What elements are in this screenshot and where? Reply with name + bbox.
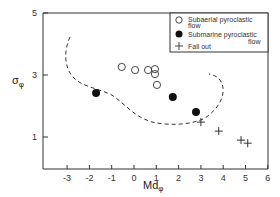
x-tick-label: 4 — [221, 173, 226, 183]
legend-label: flow — [188, 22, 201, 29]
data-points — [92, 63, 252, 147]
filled-circle-point — [92, 89, 100, 97]
x-tick-label: 2 — [176, 173, 181, 183]
y-axis-label: σφ — [12, 74, 24, 89]
plus-point — [197, 118, 205, 126]
filled-circle-icon — [176, 31, 183, 38]
open-circle-point — [118, 63, 125, 70]
x-tick-label: 6 — [265, 173, 270, 183]
y-tick-label: 5 — [32, 8, 37, 18]
y-tick-label: 3 — [32, 70, 37, 80]
x-tick-label: 5 — [243, 173, 248, 183]
scatter-chart: 135 -3-2-10123456 σφ Mdφ Subaerial pyroc… — [0, 0, 280, 197]
legend-label: Fall out — [188, 43, 211, 50]
x-tick-label: -3 — [63, 173, 71, 183]
x-tick-label: 0 — [131, 173, 136, 183]
open-circle-point — [153, 81, 160, 88]
legend-label: Submarine pyroclastic — [188, 31, 257, 39]
x-axis-ticks: -3-2-10123456 — [63, 165, 270, 183]
x-tick-label: 3 — [198, 173, 203, 183]
legend-label: flow — [248, 38, 261, 45]
y-axis-ticks: 135 — [32, 8, 48, 142]
legend: Subaerial pyroclastic flow Submarine pyr… — [170, 13, 268, 52]
x-axis-label: Mdφ — [143, 179, 163, 193]
x-tick-label: -1 — [108, 173, 116, 183]
filled-circle-point — [169, 93, 177, 101]
plus-point — [215, 127, 223, 135]
open-circle-point — [144, 66, 151, 73]
x-tick-label: -2 — [85, 173, 93, 183]
open-circle-icon — [176, 17, 182, 23]
open-circle-point — [151, 70, 158, 77]
filled-circle-point — [192, 108, 200, 116]
open-circle-point — [132, 66, 139, 73]
y-tick-label: 1 — [32, 132, 37, 142]
